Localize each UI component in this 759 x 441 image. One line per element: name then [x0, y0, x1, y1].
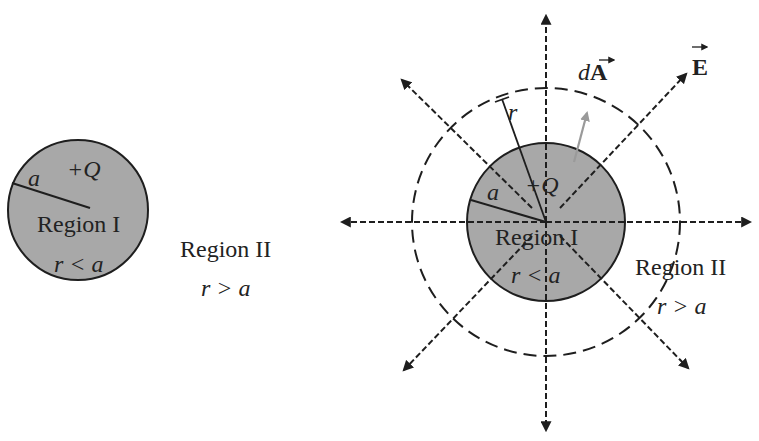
region-2-condition: r > a	[201, 275, 251, 301]
region-2-label: Region II	[180, 236, 271, 262]
radius-r-label: r	[508, 99, 518, 125]
left-figure: a +Q Region I r < a Region II r > a	[8, 140, 271, 301]
field-vector-label: E	[692, 54, 708, 80]
region-2-label: Region II	[635, 254, 726, 280]
region-2-condition: r > a	[657, 293, 707, 319]
charge-label: +Q	[525, 172, 559, 198]
radius-a-label: a	[28, 165, 40, 191]
radius-a-label: a	[487, 179, 499, 205]
region-1-label: Region I	[495, 224, 578, 250]
region-1-label: Region I	[37, 211, 120, 237]
region-1-condition: r < a	[511, 262, 561, 288]
charge-label: +Q	[67, 156, 101, 182]
region-1-condition: r < a	[54, 251, 104, 277]
gauss-law-diagram: a +Q Region I r < a Region II r > a a r	[0, 0, 759, 441]
field-line-down-left	[404, 236, 532, 370]
electric-field-lines	[342, 16, 750, 430]
right-figure: a r dA E +Q Region I r < a Region II r >…	[342, 16, 750, 430]
area-vector-label: dA	[578, 59, 608, 85]
